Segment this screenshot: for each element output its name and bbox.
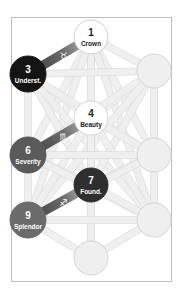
scorpio-icon: ♏ [59,132,67,142]
node-right-mid[interactable] [137,138,171,172]
path-severity-right-mid [28,152,154,159]
node-number: 4 [88,108,94,119]
tree-of-life-diagram: ♉♏♐ 1Crown3Underst.4Beauty6Severity7Foun… [0,0,182,293]
node-number: 3 [25,64,31,75]
tree-svg: ♉♏♐ 1Crown3Underst.4Beauty6Severity7Foun… [0,0,182,293]
diagram-caption [0,286,182,293]
node-right-top[interactable] [137,54,171,88]
node-beauty[interactable]: 4Beauty [74,101,108,135]
path-splendor-right-low [28,217,154,224]
node-label: Crown [81,40,101,47]
node-label: Beauty [80,121,102,129]
node-label: Splendor [14,223,43,231]
node-label: Found. [80,188,102,195]
node-understanding[interactable]: 3Underst. [10,56,46,92]
node-splendor[interactable]: 9Splendor [10,202,46,238]
node-foundation[interactable]: 7Found. [74,168,108,202]
node-label: Severity [15,158,41,166]
node-bottom[interactable] [74,241,108,275]
taurus-icon: ♉ [59,51,67,61]
node-number: 1 [88,27,94,38]
node-label: Underst. [15,77,42,84]
node-number: 7 [88,175,94,186]
path-understanding-right-top [28,68,154,78]
node-number: 9 [25,210,31,221]
node-number: 6 [25,145,31,156]
node-crown[interactable]: 1Crown [74,20,108,54]
node-severity[interactable]: 6Severity [10,137,46,173]
node-right-low[interactable] [137,203,171,237]
sagittarius-icon: ♐ [59,198,67,208]
